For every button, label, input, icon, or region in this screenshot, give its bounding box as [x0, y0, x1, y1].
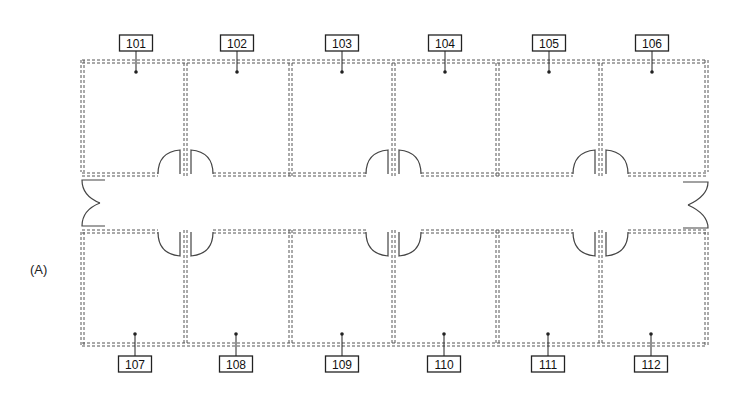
room-labels-bottom: 107108109110111112	[119, 332, 668, 372]
pin-dot	[547, 70, 551, 74]
pin-dot	[650, 70, 654, 74]
pin-dot	[234, 332, 238, 336]
room-labels-top: 101102103104105106	[120, 35, 669, 74]
room-104: 104	[429, 35, 462, 74]
corridor-door-right	[683, 182, 708, 228]
room-number: 102	[227, 37, 247, 51]
room-102: 102	[221, 35, 254, 74]
pin-dot	[235, 70, 239, 74]
pin-dot	[134, 70, 138, 74]
walls	[81, 60, 708, 346]
room-number: 111	[539, 358, 558, 372]
room-number: 106	[642, 37, 662, 51]
pin-dot	[340, 332, 344, 336]
floor-plan: 101102103104105106 107108109110111112	[0, 0, 731, 400]
pin-dot	[546, 332, 550, 336]
room-number: 112	[641, 358, 660, 372]
room-number: 103	[332, 37, 352, 51]
room-105: 105	[533, 35, 566, 74]
pin-dot	[649, 332, 653, 336]
room-103: 103	[326, 35, 359, 74]
door-pair-111-112	[573, 232, 628, 256]
door-pair-109-110	[366, 232, 421, 256]
room-number: 105	[539, 37, 559, 51]
room-108: 108	[220, 332, 253, 372]
pin-dot	[340, 70, 344, 74]
room-112: 112	[635, 332, 668, 372]
pin-dot	[443, 70, 447, 74]
pin-dot	[133, 332, 137, 336]
door-pair-101-102	[158, 150, 213, 174]
door-pair-107-108	[158, 232, 213, 256]
room-111: 111	[532, 332, 565, 372]
room-number: 104	[435, 37, 455, 51]
pin-dot	[442, 332, 446, 336]
room-109: 109	[326, 332, 359, 372]
room-number: 110	[434, 358, 453, 372]
room-101: 101	[120, 35, 153, 74]
corridor-door-left	[82, 180, 105, 226]
room-number: 101	[126, 37, 146, 51]
room-number: 107	[125, 358, 145, 372]
room-110: 110	[428, 332, 461, 372]
door-pair-105-106	[573, 150, 628, 174]
room-107: 107	[119, 332, 152, 372]
room-number: 109	[332, 358, 352, 372]
room-number: 108	[226, 358, 246, 372]
room-106: 106	[636, 35, 669, 74]
door-pair-103-104	[366, 150, 421, 174]
